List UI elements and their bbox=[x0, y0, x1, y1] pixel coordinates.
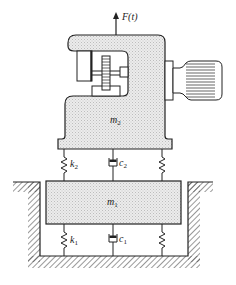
mass-m1-label: m1 bbox=[107, 197, 118, 209]
gear-assembly bbox=[77, 51, 128, 96]
spring-k1-label: k1 bbox=[70, 235, 78, 247]
damper-c1-label: c1 bbox=[119, 234, 127, 246]
spring-k2 bbox=[61, 149, 67, 181]
spring-k1 bbox=[61, 224, 67, 256]
spring-k2-label: k2 bbox=[70, 159, 78, 171]
motor bbox=[165, 61, 222, 100]
damper-c2-label: c2 bbox=[119, 158, 127, 170]
force-arrow-icon bbox=[113, 12, 119, 35]
mass-m2-label: m2 bbox=[110, 115, 121, 127]
force-label: F(t) bbox=[122, 12, 138, 22]
diagram-canvas bbox=[0, 0, 236, 285]
spring-k1-right bbox=[159, 224, 165, 256]
spring-k2-right bbox=[159, 149, 165, 181]
